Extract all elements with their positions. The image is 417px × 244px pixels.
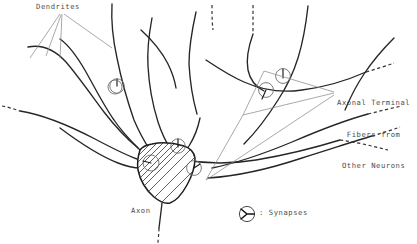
leader-terminal-branch — [243, 71, 264, 115]
dashed-left-edge — [2, 106, 20, 111]
axon-fiber — [159, 203, 162, 228]
label-terminal-line-1: Axonal Terminal — [337, 98, 410, 109]
label-terminal-line-2: Fibers from — [337, 130, 410, 141]
label-terminal-line-3: Other Neurons — [337, 161, 410, 172]
label-synapses-legend: : Synapses — [259, 208, 308, 219]
dendrite-right-of-center — [189, 12, 197, 114]
leader-dendrites-left — [30, 14, 60, 58]
dendrite-left-upper — [60, 39, 140, 150]
dendrite-left-lower — [20, 111, 137, 159]
leader-dendrites-down — [46, 15, 61, 56]
synapse-top-right-a — [276, 69, 291, 84]
label-dendrites: Dendrites — [36, 2, 80, 13]
axon-dashed-end — [158, 228, 159, 243]
dashed-top-left-vertical — [212, 5, 213, 30]
dendrite-central-right — [148, 18, 170, 148]
terminal-fiber-mid-right — [184, 140, 340, 163]
dendrite-upper-mid-arc — [141, 30, 176, 88]
leader-dendrites-mid — [60, 14, 62, 58]
leader-dendrites-right — [64, 14, 112, 48]
label-axon: Axon — [131, 206, 151, 217]
legend-synapse-symbol — [239, 206, 254, 221]
label-axonal-terminal-fibers: Axonal Terminal Fibers from Other Neuron… — [337, 77, 410, 193]
legend-stem — [241, 209, 254, 219]
dendrite-mid-left-sweep — [60, 128, 141, 168]
leader-terminal-branch2 — [206, 115, 243, 180]
terminal-fiber-top-right — [247, 34, 264, 91]
axon — [158, 203, 162, 243]
synapse-top-right-b — [259, 83, 274, 99]
leader-terminal-upper — [264, 71, 334, 92]
neuron-diagram: Dendrites Axon Axonal Terminal Fibers fr… — [0, 0, 417, 244]
